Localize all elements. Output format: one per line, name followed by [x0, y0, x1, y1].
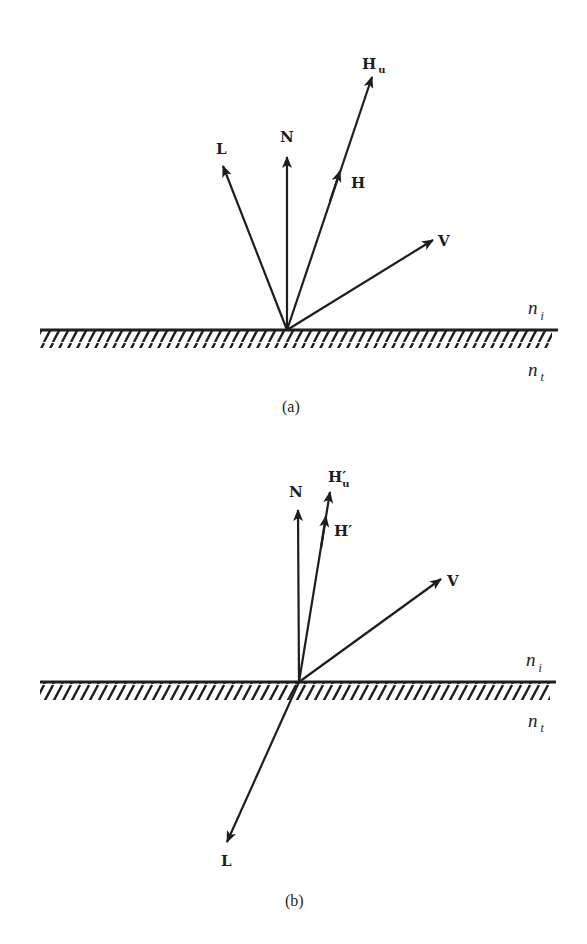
label-n-i: ni	[528, 297, 544, 323]
vector-hu	[287, 77, 372, 330]
label-hu-prime: H′u	[328, 468, 349, 489]
label-v: V	[437, 232, 450, 250]
vector-l	[227, 682, 299, 842]
vector-v	[299, 579, 441, 682]
label-n: N	[289, 483, 303, 501]
label-l: L	[216, 140, 227, 158]
vector-n	[298, 510, 299, 682]
caption-a: (a)	[282, 398, 300, 416]
label-v: V	[446, 572, 459, 590]
label-l: L	[221, 852, 232, 870]
vector-v	[287, 240, 433, 330]
label-h-prime: H′	[334, 522, 352, 540]
label-n: N	[280, 128, 294, 146]
caption-b: (b)	[285, 892, 304, 910]
vector-h-prime	[321, 516, 326, 548]
vector-h	[330, 171, 340, 201]
hatched-medium	[40, 331, 552, 348]
label-n-t: nt	[528, 710, 545, 735]
label-hu: Hu	[362, 55, 385, 75]
label-h: H	[351, 174, 365, 192]
label-n-t: nt	[528, 359, 545, 384]
panel-a: L N H Hu V ni nt (a)	[40, 55, 558, 416]
label-n-i: ni	[526, 649, 542, 675]
panel-b: N H′u H′ V L ni nt (b)	[40, 468, 556, 910]
reflection-diagram: L N H Hu V ni nt (a) N H′u H′ V L ni nt …	[0, 0, 587, 944]
vector-l	[223, 166, 287, 330]
